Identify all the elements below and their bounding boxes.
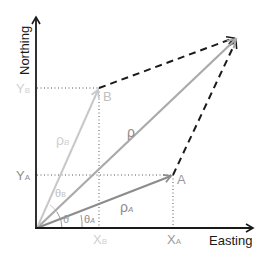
easting-label: Easting <box>209 233 252 248</box>
yb-tick-label: YB <box>16 81 30 96</box>
dashed-b-to-sum <box>99 38 234 88</box>
rho-b-label: ρB <box>56 132 70 148</box>
theta-a-label: θA <box>84 213 95 225</box>
xa-tick-label: XA <box>167 232 182 247</box>
northing-label: Northing <box>17 26 32 75</box>
projection-lines <box>37 88 173 228</box>
theta-b-label: θB <box>55 187 66 199</box>
point-b-label: B <box>103 89 112 104</box>
theta-a-arc <box>81 215 82 228</box>
theta-label: θ <box>63 213 69 225</box>
vector-addition-diagram: Northing Easting B A YB YA XB XA ρ ρA ρB… <box>0 0 267 262</box>
rho-vector <box>37 39 236 228</box>
rho-label: ρ <box>127 124 135 140</box>
rho-a-label: ρA <box>120 199 133 215</box>
dashed-a-to-sum <box>173 41 236 175</box>
xb-tick-label: XB <box>93 232 107 247</box>
point-a-label: A <box>177 172 186 187</box>
ya-tick-label: YA <box>16 168 31 183</box>
